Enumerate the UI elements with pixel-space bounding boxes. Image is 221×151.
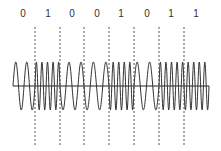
waveform-plot — [0, 0, 221, 151]
